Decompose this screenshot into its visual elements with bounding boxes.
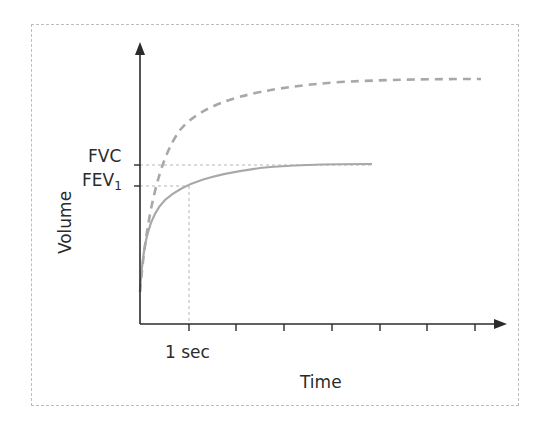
spirometry-plot <box>0 0 549 440</box>
fvc-label: FVC <box>88 148 121 165</box>
x-axis-arrow-icon <box>494 319 507 329</box>
y-axis-title: Volume <box>57 191 74 254</box>
dashed-volume-curve <box>140 79 481 292</box>
x-axis-title: Time <box>300 374 342 391</box>
solid-volume-curve <box>140 164 372 292</box>
x-ticks <box>189 324 475 331</box>
y-axis-arrow-icon <box>135 42 145 55</box>
fev1-label-sub: 1 <box>114 179 122 193</box>
fev1-label: FEV1 <box>82 172 122 192</box>
fev1-label-main: FEV <box>82 170 114 190</box>
one-sec-label: 1 sec <box>165 344 210 361</box>
